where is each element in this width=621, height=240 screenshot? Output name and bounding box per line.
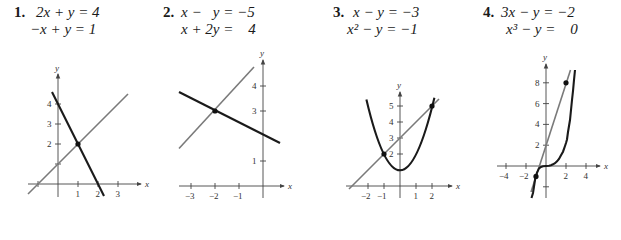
intersection-point-2 bbox=[563, 80, 568, 85]
intersection-point bbox=[75, 141, 80, 146]
intersection-point bbox=[212, 108, 217, 113]
svg-text:4: 4 bbox=[584, 171, 589, 181]
svg-text:2: 2 bbox=[47, 139, 52, 149]
graph-3: x y −2 −1 1 2 2 3 4 5 bbox=[346, 80, 460, 201]
svg-text:2: 2 bbox=[430, 191, 435, 201]
y-axis-label: y bbox=[542, 52, 547, 62]
intersection-point-2 bbox=[429, 103, 434, 108]
svg-text:4: 4 bbox=[47, 99, 52, 109]
svg-text:2: 2 bbox=[389, 149, 394, 159]
svg-text:2: 2 bbox=[564, 171, 569, 181]
svg-text:8: 8 bbox=[535, 78, 540, 88]
x-axis-label: x bbox=[455, 181, 460, 191]
intersection-point-1 bbox=[381, 151, 386, 156]
svg-text:1: 1 bbox=[252, 156, 257, 166]
svg-text:4: 4 bbox=[535, 119, 540, 129]
cubic-x3-minus-y-eq-0 bbox=[532, 70, 576, 198]
y-ticks: 2 3 4 5 bbox=[389, 101, 403, 170]
graph-2: x y −3 −2 −1 1 3 4 bbox=[179, 48, 292, 201]
x-axis-label: x bbox=[144, 179, 149, 189]
y-axis-label: y bbox=[396, 80, 401, 90]
svg-text:−1: −1 bbox=[233, 191, 243, 201]
graph-4: x y −4 −2 2 4 2 4 6 8 bbox=[497, 52, 608, 198]
line-x-minus-y-eq-neg3 bbox=[349, 99, 439, 189]
svg-text:1: 1 bbox=[76, 189, 81, 199]
graph-1: x y 1 2 3 2 3 4 bbox=[28, 63, 149, 199]
y-axis-label: y bbox=[259, 48, 264, 58]
svg-text:−3: −3 bbox=[185, 191, 195, 201]
svg-text:−2: −2 bbox=[209, 191, 219, 201]
svg-text:1: 1 bbox=[414, 191, 419, 201]
y-axis-label: y bbox=[54, 63, 59, 73]
svg-text:−2: −2 bbox=[361, 191, 371, 201]
line-x-minus-y-eq-neg5 bbox=[179, 67, 254, 149]
svg-text:6: 6 bbox=[535, 99, 540, 109]
y-ticks: 1 3 4 bbox=[252, 81, 266, 166]
svg-text:2: 2 bbox=[96, 189, 101, 199]
y-ticks: 2 3 4 bbox=[47, 99, 61, 164]
svg-text:4: 4 bbox=[389, 117, 394, 127]
svg-text:3: 3 bbox=[47, 119, 52, 129]
svg-text:−4: −4 bbox=[499, 171, 509, 181]
x-axis-label: x bbox=[287, 181, 292, 191]
svg-text:3: 3 bbox=[116, 189, 121, 199]
line-x-plus-2y-eq-4 bbox=[179, 92, 280, 143]
svg-text:2: 2 bbox=[535, 140, 540, 150]
svg-text:3: 3 bbox=[389, 133, 394, 143]
x-axis-label: x bbox=[603, 161, 608, 171]
svg-text:3: 3 bbox=[252, 106, 257, 116]
intersection-point-1 bbox=[533, 174, 538, 179]
svg-text:5: 5 bbox=[389, 101, 394, 111]
svg-text:4: 4 bbox=[252, 81, 257, 91]
svg-text:−2: −2 bbox=[519, 171, 529, 181]
svg-text:−1: −1 bbox=[377, 191, 387, 201]
